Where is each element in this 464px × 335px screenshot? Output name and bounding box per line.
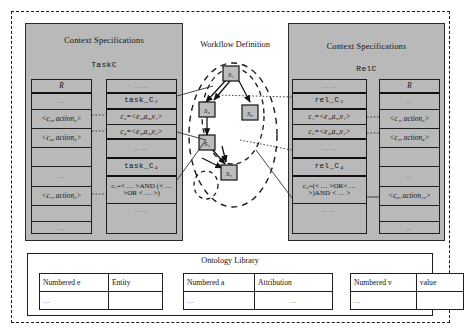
ontology-library-panel: Ontology Library Numbered e Entity … Num…	[27, 253, 433, 316]
table-cell: …	[255, 292, 332, 309]
workflow-node-s4-label: S₄	[204, 140, 211, 148]
table-row: c₄=<e₃,a₃,v₂>	[107, 125, 176, 140]
table-row: ……	[107, 140, 176, 159]
table-row: … …	[184, 292, 332, 309]
table-header-row: Numbered e Entity	[40, 274, 162, 292]
table-row: …	[40, 292, 162, 309]
table-row: ……	[107, 80, 176, 94]
table-row: …	[380, 94, 439, 110]
table-row: ……	[293, 80, 366, 94]
table-row: <c₈, action₁₅>	[380, 187, 439, 206]
table-row: c₁=<e₁,a₂,v₁>	[293, 110, 366, 125]
right-panel-title: Context Specifications	[289, 42, 444, 51]
edge-s4-s5-c	[222, 146, 226, 162]
ontology-library-title: Ontology Library	[28, 256, 432, 265]
table-row: <c₇, action₉>	[32, 187, 91, 206]
table-row: …	[32, 94, 91, 110]
edge-s1-s2	[206, 80, 226, 102]
table-row	[32, 148, 91, 167]
right-r-header: R	[380, 80, 439, 94]
table-row: ……	[107, 204, 176, 217]
table-row: <c₂, action₄>	[380, 129, 439, 148]
table-row: …	[32, 167, 91, 187]
table-row: c₂=<e₃,a₂,v₂>	[293, 125, 366, 140]
table-cell: …	[184, 292, 255, 309]
table-row: task_C₄	[107, 159, 176, 177]
workflow-node-s3-label: S₃	[247, 110, 254, 118]
left-r-table: R … <c₃, action₅> <c₄, action₆> … <c₇, a…	[31, 79, 92, 234]
right-r-table: R … <c₁, action₃> <c₂, action₄> … <c₈, a…	[379, 79, 440, 234]
edge-s4-s5-b	[202, 158, 222, 168]
table-row: <c₃, action₅>	[32, 110, 91, 129]
table-row: …	[32, 222, 91, 235]
workflow-node-s5-label: S₅	[226, 170, 233, 178]
column-header: value	[417, 274, 463, 291]
table-row: …	[380, 167, 439, 187]
table-cell	[109, 292, 162, 309]
ontology-attribution-table: Numbered a Attribution … …	[183, 273, 333, 310]
workflow-node-s1-label: S₁	[228, 71, 234, 79]
table-row: ……	[293, 140, 366, 159]
workflow-edges	[202, 80, 250, 168]
edge-s1-s3	[239, 81, 250, 102]
table-row	[32, 206, 91, 222]
table-cell: …	[40, 292, 109, 309]
table-cell	[417, 292, 463, 309]
table-row: rel_C₄	[293, 159, 366, 177]
column-header: Attribution	[255, 274, 332, 291]
left-panel-title: Context Specifications	[26, 36, 182, 45]
table-row: c₃=<e₂,a₃,v₁>	[107, 110, 176, 125]
left-c-table: …… task_C₂ c₃=<e₂,a₃,v₁> c₄=<e₃,a₃,v₂> ……	[106, 79, 177, 234]
ontology-entity-table: Numbered e Entity …	[39, 273, 163, 310]
table-row: ……	[293, 204, 366, 217]
column-header: Numbered e	[40, 274, 109, 291]
left-panel-subtitle: TaskC	[26, 60, 182, 69]
table-row: <c₁, action₃>	[380, 110, 439, 129]
workflow-node-s2-label: S₂	[204, 107, 211, 115]
table-row: c₇=< … >AND (< … >OR < … >)	[107, 177, 176, 204]
table-row: …	[351, 292, 463, 309]
workflow-graph: S₁ S₂ S₃ S₄ S₅	[178, 50, 288, 230]
table-header-row: Numbered v value	[351, 274, 463, 292]
right-c-table: …… rel_C₂ c₁=<e₁,a₂,v₁> c₂=<e₃,a₂,v₂> ………	[292, 79, 367, 234]
table-row: <c₄, action₆>	[32, 129, 91, 148]
table-row: c₉=(< … >OR< … >)AND < … >	[293, 177, 366, 204]
table-row: …	[380, 222, 439, 235]
table-row: task_C₂	[107, 94, 176, 110]
right-panel-subtitle: RelC	[289, 64, 444, 73]
column-header: Entity	[109, 274, 162, 291]
column-header: Numbered a	[184, 274, 255, 291]
left-r-header: R	[32, 80, 91, 94]
column-header: Numbered v	[351, 274, 417, 291]
workflow-title: Workflow Definition	[170, 40, 300, 49]
table-row	[380, 148, 439, 167]
table-cell: …	[351, 292, 417, 309]
table-header-row: Numbered a Attribution	[184, 274, 332, 292]
table-row: rel_C₂	[293, 94, 366, 110]
table-row	[380, 206, 439, 222]
workflow-small-boundary	[194, 171, 218, 199]
ontology-value-table: Numbered v value …	[350, 273, 464, 310]
